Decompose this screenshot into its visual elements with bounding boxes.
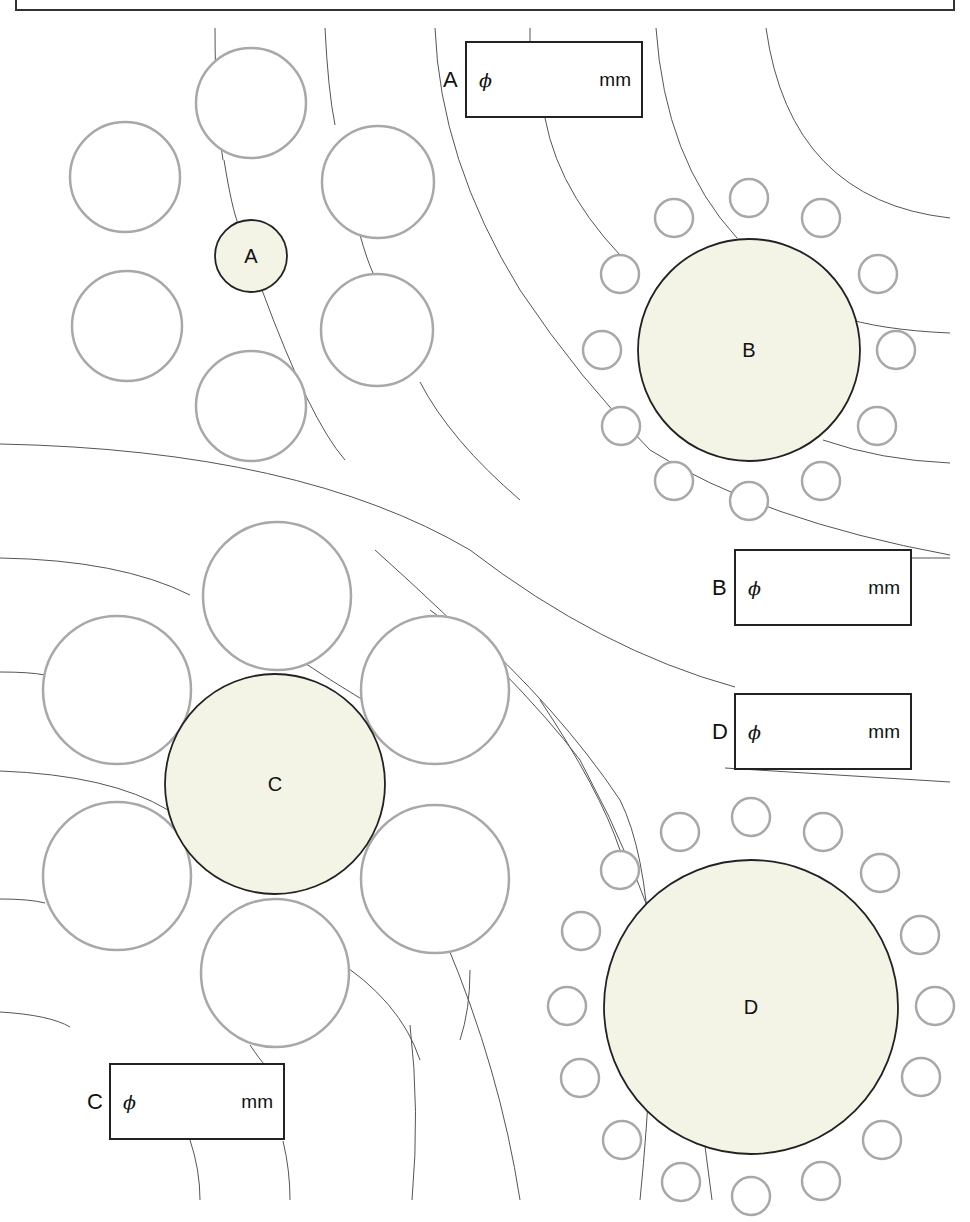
surrounding-circle — [732, 798, 770, 836]
phi-symbol: ϕ — [479, 69, 492, 91]
arc-line — [283, 1141, 290, 1200]
unit-label: mm — [868, 721, 900, 743]
surrounding-circle — [655, 462, 693, 500]
surrounding-circle — [730, 482, 768, 520]
phi-symbol: ϕ — [748, 721, 761, 743]
surrounding-circle — [43, 802, 191, 950]
circle-groups: ABCD — [43, 48, 954, 1215]
answer-value-b[interactable] — [776, 551, 860, 624]
answer-box-d-label: D — [712, 719, 728, 745]
surrounding-circle — [732, 1177, 770, 1215]
arc-line — [0, 1012, 70, 1027]
answer-value-d[interactable] — [776, 695, 860, 768]
surrounding-circle — [70, 122, 180, 232]
surrounding-circle — [602, 407, 640, 445]
surrounding-circle — [196, 351, 306, 461]
unit-label: mm — [599, 69, 631, 91]
answer-box-c-label: C — [87, 1089, 103, 1115]
arc-line — [0, 771, 168, 810]
surrounding-circle — [901, 916, 939, 954]
surrounding-circle — [655, 199, 693, 237]
diagram-canvas: ABCD ϕ mm A ϕ mm B ϕ mm D ϕ mm C — [0, 0, 970, 1222]
surrounding-circle — [601, 851, 639, 889]
arc-line — [0, 558, 190, 595]
circle-group-a: A — [70, 48, 434, 461]
surrounding-circle — [804, 813, 842, 851]
surrounding-circle — [858, 407, 896, 445]
arc-line — [540, 700, 620, 850]
surrounding-circle — [661, 813, 699, 851]
arc-line — [190, 1140, 200, 1200]
surrounding-circle — [902, 1058, 940, 1096]
phi-symbol: ϕ — [123, 1091, 136, 1113]
surrounding-circle — [72, 271, 182, 381]
surrounding-circle — [662, 1163, 700, 1201]
phi-symbol: ϕ — [748, 577, 761, 599]
circle-label-d: D — [744, 996, 758, 1018]
unit-label: mm — [241, 1091, 273, 1113]
surrounding-circle — [583, 331, 621, 369]
surrounding-circle — [562, 912, 600, 950]
answer-box-b-label: B — [712, 575, 727, 601]
surrounding-circle — [859, 255, 897, 293]
surrounding-circle — [916, 987, 954, 1025]
arc-line — [250, 1045, 265, 1065]
surrounding-circle — [802, 462, 840, 500]
answer-box-b[interactable]: ϕ mm — [734, 549, 912, 626]
surrounding-circle — [43, 616, 191, 764]
circle-label-b: B — [742, 339, 755, 361]
circle-group-c: C — [43, 522, 509, 1047]
arc-line — [545, 118, 640, 275]
surrounding-circle — [321, 274, 433, 386]
surrounding-circle — [730, 179, 768, 217]
surrounding-circle — [877, 331, 915, 369]
surrounding-circle — [802, 199, 840, 237]
surrounding-circle — [322, 126, 434, 238]
circle-group-b: B — [583, 179, 915, 520]
circle-group-d: D — [548, 798, 954, 1215]
surrounding-circle — [201, 899, 349, 1047]
arc-line — [0, 672, 45, 675]
top-frame-border — [16, 0, 954, 10]
surrounding-circle — [861, 854, 899, 892]
answer-box-a[interactable]: ϕ mm — [465, 41, 643, 118]
surrounding-circle — [361, 616, 509, 764]
surrounding-circle — [802, 1162, 840, 1200]
circle-label-a: A — [244, 245, 258, 267]
surrounding-circle — [361, 805, 509, 953]
answer-box-d[interactable]: ϕ mm — [734, 693, 912, 770]
surrounding-circle — [196, 48, 306, 158]
arc-line — [445, 940, 520, 1200]
surrounding-circle — [561, 1059, 599, 1097]
answer-box-c[interactable]: ϕ mm — [109, 1063, 285, 1140]
answer-box-a-label: A — [443, 67, 458, 93]
answer-value-c[interactable] — [151, 1065, 233, 1138]
arc-line — [410, 1025, 416, 1200]
arc-line — [766, 28, 950, 218]
surrounding-circle — [203, 522, 351, 670]
arc-line — [725, 768, 950, 782]
surrounding-circle — [548, 987, 586, 1025]
answer-value-a[interactable] — [507, 43, 591, 116]
surrounding-circle — [863, 1121, 901, 1159]
unit-label: mm — [868, 577, 900, 599]
arc-line — [0, 899, 45, 903]
surrounding-circle — [603, 1121, 641, 1159]
circle-label-c: C — [268, 773, 282, 795]
surrounding-circle — [601, 255, 639, 293]
